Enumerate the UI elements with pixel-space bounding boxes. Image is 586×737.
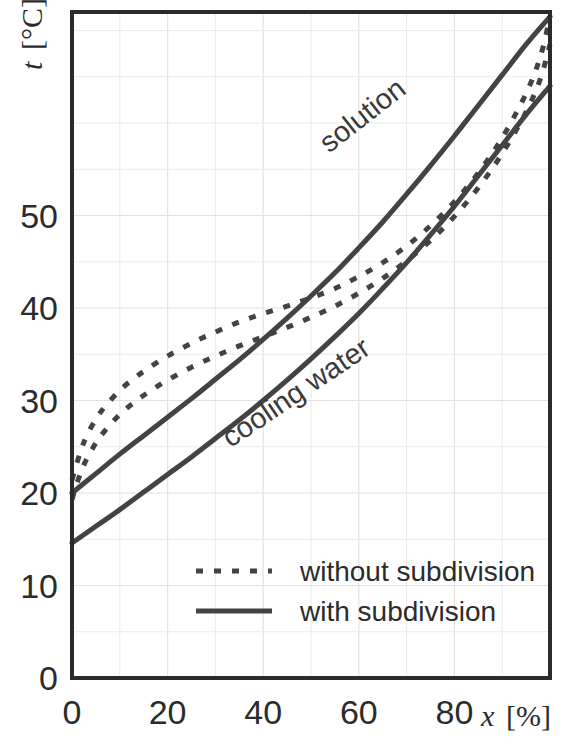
x-tick-label: 0 xyxy=(63,693,82,731)
y-tick-label: 10 xyxy=(20,567,58,605)
legend-label-without-subdivision: without subdivision xyxy=(299,556,535,587)
y-tick-label: 40 xyxy=(20,289,58,327)
y-axis-title: t [°C] xyxy=(15,0,48,70)
x-tick-label: 60 xyxy=(340,693,378,731)
legend-label-with-subdivision: with subdivision xyxy=(299,596,496,627)
x-axis-title-symbol: x xyxy=(480,699,495,732)
x-tick-label: 20 xyxy=(149,693,187,731)
x-axis-title: x [%] xyxy=(480,699,551,732)
y-tick-label: 20 xyxy=(20,474,58,512)
chart-container: 01020304050 020406080 t [°C] x [%] solut… xyxy=(0,0,586,737)
x-axis-title-unit: [%] xyxy=(506,699,551,732)
y-tick-label: 50 xyxy=(20,197,58,235)
y-axis-title-symbol: t xyxy=(15,61,48,70)
x-axis-tick-labels: 020406080 xyxy=(63,693,474,731)
temperature-profile-chart: 01020304050 020406080 t [°C] x [%] solut… xyxy=(0,0,586,737)
x-tick-label: 40 xyxy=(244,693,282,731)
y-axis-tick-labels: 01020304050 xyxy=(20,197,58,698)
y-axis-title-unit: [°C] xyxy=(15,0,48,50)
y-tick-label: 30 xyxy=(20,382,58,420)
x-tick-label: 80 xyxy=(435,693,473,731)
y-tick-label: 0 xyxy=(39,659,58,697)
